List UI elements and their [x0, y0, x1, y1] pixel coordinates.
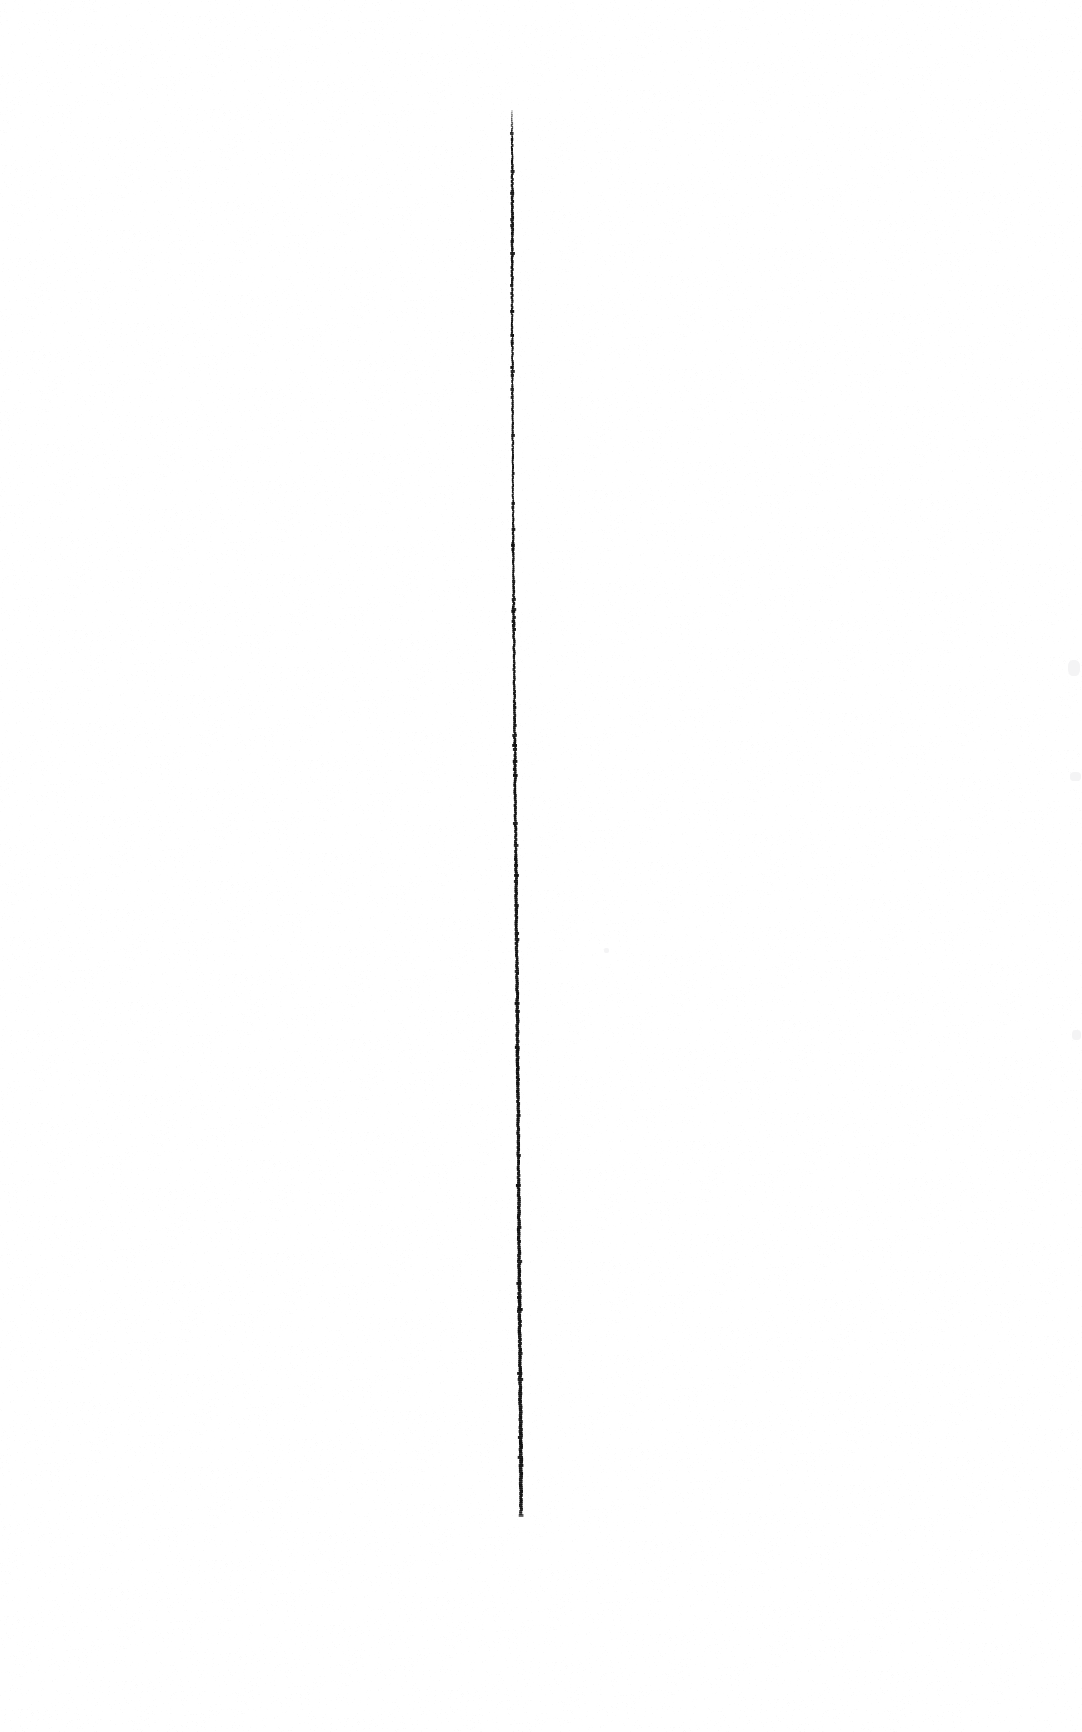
ink-stroke-group [510, 110, 523, 1517]
ink-line-layer [0, 0, 1082, 1732]
scanned-page [0, 0, 1082, 1732]
